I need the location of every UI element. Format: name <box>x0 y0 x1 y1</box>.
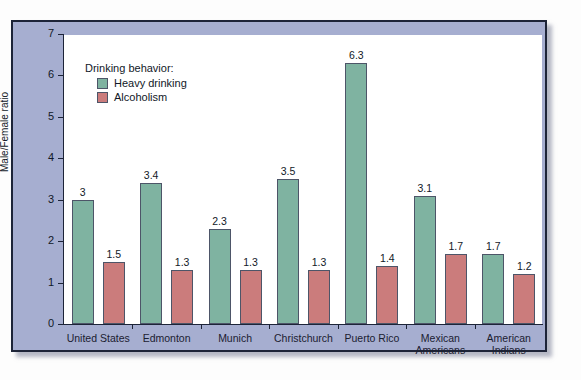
x-tick-mark <box>338 324 339 329</box>
y-tick-mark <box>58 200 63 201</box>
bar <box>72 200 94 324</box>
bar-value-label: 3.4 <box>132 169 170 181</box>
category-label: United States <box>64 332 132 344</box>
bar <box>482 254 504 324</box>
x-axis-line <box>63 324 543 325</box>
category-label: American Indians <box>475 332 543 356</box>
legend-swatch-alcoholism <box>97 92 108 103</box>
x-tick-mark <box>201 324 202 329</box>
bar <box>513 274 535 324</box>
bar <box>103 262 125 324</box>
y-tick-5: 5 <box>58 117 63 118</box>
legend-item-alcoholism: Alcoholism <box>97 91 187 103</box>
y-tick-2: 2 <box>58 241 63 242</box>
y-tick-mark <box>58 283 63 284</box>
y-tick-mark <box>58 241 63 242</box>
bar <box>414 196 436 324</box>
legend-title: Drinking behavior: <box>85 62 187 74</box>
x-tick-mark <box>132 324 133 329</box>
bar <box>209 229 231 324</box>
bar-value-label: 1.7 <box>437 240 475 252</box>
bar-value-label: 3.1 <box>406 182 444 194</box>
bar-value-label: 1.3 <box>163 256 201 268</box>
bar <box>308 270 330 324</box>
bar-value-label: 1.7 <box>474 240 512 252</box>
bar <box>240 270 262 324</box>
bar-value-label: 1.4 <box>368 252 406 264</box>
y-axis-title: Male/Female ratio <box>0 92 10 172</box>
bar-value-label: 1.2 <box>505 260 543 272</box>
legend-swatch-heavy-drinking <box>97 78 108 89</box>
bar <box>345 63 367 324</box>
y-tick-1: 1 <box>58 283 63 284</box>
bar <box>171 270 193 324</box>
y-tick-label: 6 <box>48 68 54 80</box>
bar-value-label: 1.3 <box>232 256 270 268</box>
y-tick-label: 5 <box>48 110 54 122</box>
y-tick-mark <box>58 158 63 159</box>
category-label: Munich <box>201 332 269 344</box>
y-axis-line <box>63 34 64 325</box>
category-label: Puerto Rico <box>338 332 406 344</box>
category-label: Edmonton <box>132 332 200 344</box>
x-tick-mark <box>406 324 407 329</box>
y-tick-mark <box>58 324 63 325</box>
bar <box>376 266 398 324</box>
bar <box>140 183 162 324</box>
bar-value-label: 1.3 <box>300 256 338 268</box>
y-tick-3: 3 <box>58 200 63 201</box>
legend-label-heavy-drinking: Heavy drinking <box>114 77 187 89</box>
chart-legend: Drinking behavior: Heavy drinking Alcoho… <box>85 62 187 105</box>
bar-value-label: 3.5 <box>269 165 307 177</box>
x-tick-mark <box>269 324 270 329</box>
category-label: Christchurch <box>269 332 337 344</box>
bar-value-label: 6.3 <box>337 49 375 61</box>
y-tick-6: 6 <box>58 75 63 76</box>
legend-item-heavy-drinking: Heavy drinking <box>97 77 187 89</box>
x-tick-mark <box>475 324 476 329</box>
category-label: Mexican Americans <box>406 332 474 356</box>
y-tick-label: 3 <box>48 193 54 205</box>
y-tick-mark <box>58 34 63 35</box>
y-tick-mark <box>58 75 63 76</box>
bar-value-label: 2.3 <box>201 215 239 227</box>
y-tick-label: 7 <box>48 27 54 39</box>
y-tick-7: 7 <box>58 34 63 35</box>
y-tick-4: 4 <box>58 158 63 159</box>
y-tick-mark <box>58 117 63 118</box>
y-tick-0: 0 <box>58 324 63 325</box>
bar-value-label: 3 <box>64 186 102 198</box>
legend-label-alcoholism: Alcoholism <box>114 91 167 103</box>
chart-panel: Male/Female ratio 01234567 31.53.41.32.3… <box>11 20 547 352</box>
y-tick-label: 4 <box>48 151 54 163</box>
chart-figure: Male/Female ratio 01234567 31.53.41.32.3… <box>0 0 581 380</box>
y-tick-label: 2 <box>48 234 54 246</box>
bar <box>277 179 299 324</box>
y-tick-label: 1 <box>48 276 54 288</box>
y-tick-label: 0 <box>48 317 54 329</box>
bar-value-label: 1.5 <box>95 248 133 260</box>
bar <box>445 254 467 324</box>
